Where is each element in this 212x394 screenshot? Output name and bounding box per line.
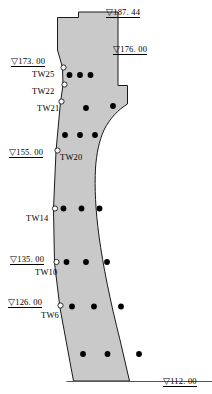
- elevation-mark-112: ▽112. 00: [163, 377, 197, 387]
- instrument-point-open: [58, 303, 63, 308]
- measurement-point-filled: [64, 259, 70, 265]
- elevation-text-187: ▽187. 44: [106, 7, 140, 17]
- elevation-text-112: ▽112. 00: [163, 376, 197, 386]
- measurement-point-filled: [91, 304, 97, 310]
- measurement-point-filled: [69, 304, 75, 310]
- measurement-point-filled: [92, 132, 98, 138]
- elevation-mark-135: ▽135. 00: [10, 255, 44, 265]
- elevation-mark-126: ▽126. 00: [8, 298, 42, 308]
- measurement-point-filled: [118, 304, 124, 310]
- measurement-point-filled: [105, 351, 111, 357]
- elevation-text-173: ▽173. 00: [11, 56, 45, 66]
- instrument-label-tw6: TW6: [41, 311, 59, 320]
- elevation-mark-173: ▽173. 00: [11, 57, 45, 67]
- elevation-mark-176: ▽176. 00: [113, 45, 147, 55]
- elevation-mark-187: ▽187. 44: [106, 8, 140, 18]
- instrument-point-open: [61, 65, 66, 70]
- instrument-point-open: [59, 99, 64, 104]
- measurement-point-filled: [79, 206, 85, 212]
- measurement-point-filled: [110, 103, 116, 109]
- measurement-point-filled: [83, 259, 89, 265]
- measurement-point-filled: [80, 351, 86, 357]
- measurement-point-filled: [61, 206, 67, 212]
- measurement-point-filled: [88, 72, 94, 78]
- instrument-label-tw14: TW14: [26, 214, 49, 223]
- measurement-point-filled: [67, 72, 73, 78]
- elevation-text-155: ▽155. 00: [9, 147, 43, 157]
- measurement-point-filled: [97, 206, 103, 212]
- instrument-label-tw22: TW22: [32, 87, 55, 96]
- instrument-point-open: [52, 206, 57, 211]
- measurement-point-filled: [62, 132, 68, 138]
- instrument-point-open: [54, 259, 59, 264]
- cross-section-diagram: ▽187. 44 ▽176. 00 ▽173. 00 ▽155. 00 ▽135…: [0, 0, 212, 394]
- measurement-point-filled: [77, 132, 83, 138]
- instrument-label-tw20: TW20: [60, 153, 83, 162]
- instrument-label-tw25: TW25: [32, 70, 55, 79]
- measurement-point-filled: [77, 72, 83, 78]
- elevation-text-126: ▽126. 00: [8, 297, 42, 307]
- measurement-point-filled: [83, 105, 89, 111]
- instrument-label-tw21: TW21: [37, 104, 60, 113]
- elevation-text-176: ▽176. 00: [113, 44, 147, 54]
- instrument-point-open: [62, 82, 67, 87]
- instrument-label-tw10: TW10: [35, 268, 58, 277]
- measurement-point-filled: [136, 351, 142, 357]
- measurement-point-filled: [104, 259, 110, 265]
- elevation-text-135: ▽135. 00: [10, 254, 44, 264]
- elevation-mark-155: ▽155. 00: [9, 148, 43, 158]
